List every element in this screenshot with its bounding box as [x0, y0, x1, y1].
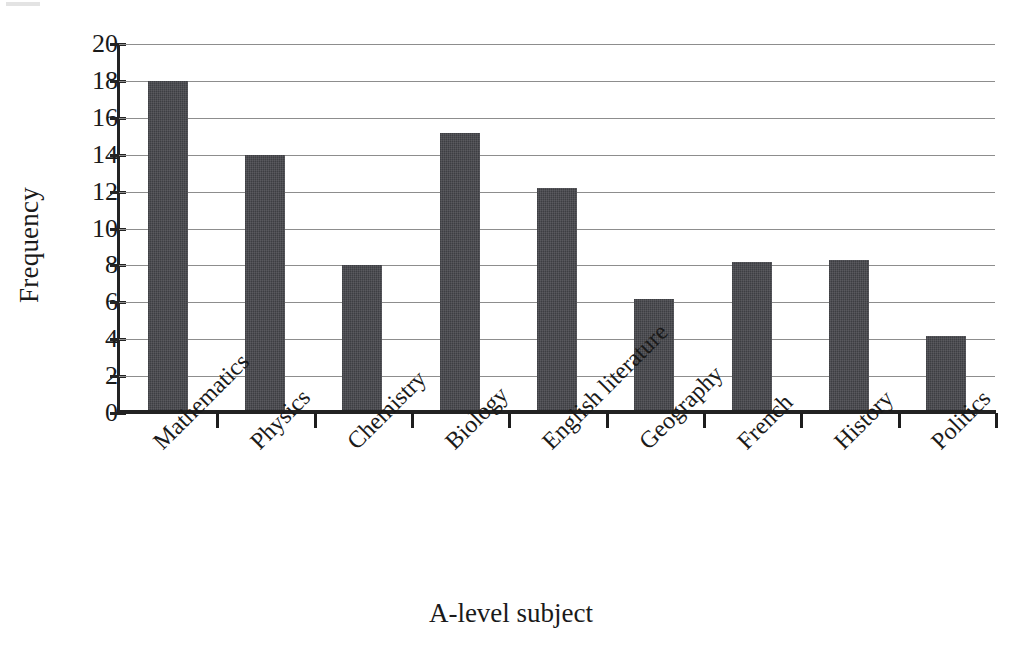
x-tick-mark: [800, 413, 803, 428]
scan-artifact: [6, 2, 40, 6]
bar: [148, 81, 188, 413]
x-tick-mark: [995, 413, 998, 428]
x-tick-mark: [314, 413, 317, 428]
x-tick-mark: [703, 413, 706, 428]
y-axis-title: Frequency: [14, 140, 45, 350]
bar: [342, 265, 382, 413]
bar: [732, 262, 772, 413]
bar: [245, 155, 285, 413]
bar: [829, 260, 869, 413]
bar-chart: Frequency 02468101214161820 MathematicsP…: [0, 0, 1022, 648]
bar: [440, 133, 480, 413]
x-tick-mark: [216, 413, 219, 428]
bars-layer: [119, 44, 995, 413]
x-tick-mark: [411, 413, 414, 428]
bar: [537, 188, 577, 413]
x-axis-title: A-level subject: [0, 598, 1022, 629]
x-tick-mark: [606, 413, 609, 428]
x-tick-mark: [898, 413, 901, 428]
x-tick-mark: [508, 413, 511, 428]
